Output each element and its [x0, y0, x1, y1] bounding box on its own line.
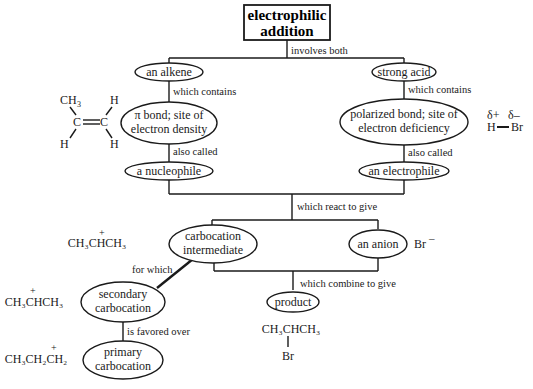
svg-text:CH₃CH₂CH₂: CH₃CH₂CH₂ — [5, 352, 68, 366]
svg-text:C: C — [73, 115, 81, 129]
link-which-combine: which combine to give — [300, 278, 396, 289]
link-which-react: which react to give — [297, 201, 378, 212]
svg-text:CH₃CHCH₃: CH₃CHCH₃ — [5, 295, 63, 309]
node-product-label: product — [275, 295, 312, 309]
svg-text:H: H — [487, 120, 496, 134]
svg-text:Br: Br — [511, 120, 523, 134]
node-strong-acid-label: strong acid — [378, 65, 431, 79]
node-primary-line1: primary — [104, 345, 142, 359]
hbr-structure: δ+ δ– H Br — [487, 108, 523, 134]
link-which-contains-right: which contains — [408, 84, 471, 95]
title-line2: addition — [260, 23, 314, 39]
node-polarized-line1: polarized bond; site of — [350, 107, 458, 121]
node-anion-label: an anion — [358, 237, 399, 251]
node-alkene-label: an alkene — [146, 65, 192, 79]
connectors — [123, 40, 404, 341]
link-also-called-left: also called — [173, 146, 218, 157]
link-involves-both: involves both — [291, 45, 349, 56]
link-which-contains-left: which contains — [173, 86, 236, 97]
link-favored-over: is favored over — [127, 326, 190, 337]
concept-map: electrophilic addition involves both an … — [0, 0, 533, 389]
propene-structure: CH 3 H C C H H — [60, 93, 119, 151]
node-nucleophile-label: a nucleophile — [137, 164, 201, 178]
svg-text:CH₃CHCH₃: CH₃CHCH₃ — [68, 236, 126, 250]
svg-text:–: – — [428, 232, 435, 244]
primary-cation-formula: + CH₃CH₂CH₂ — [5, 342, 68, 366]
carbocation-formula: + CH₃CHCH₃ — [68, 227, 126, 250]
svg-text:3: 3 — [77, 100, 81, 109]
svg-text:H: H — [110, 93, 119, 107]
node-pi-bond-line1: π bond; site of — [134, 108, 203, 122]
svg-text:H: H — [60, 137, 69, 151]
link-also-called-right: also called — [408, 147, 453, 158]
node-secondary-line1: secondary — [99, 287, 148, 301]
node-carbocation-line2: intermediate — [183, 243, 243, 257]
node-primary-line2: carbocation — [95, 359, 151, 373]
title-line1: electrophilic — [248, 7, 327, 23]
link-for-which: for which — [132, 264, 173, 275]
svg-text:Br: Br — [414, 237, 426, 251]
node-secondary-line2: carbocation — [95, 301, 151, 315]
svg-text:H: H — [110, 137, 119, 151]
svg-text:CH: CH — [60, 93, 77, 107]
svg-text:Br: Br — [282, 349, 294, 363]
svg-text:C: C — [100, 115, 108, 129]
node-pi-bond-line2: electron density — [131, 122, 207, 136]
node-polarized-line2: electron deficiency — [358, 121, 450, 135]
node-carbocation-line1: carbocation — [185, 229, 241, 243]
secondary-cation-formula: + CH₃CHCH₃ — [5, 285, 63, 309]
svg-text:CH₃CHCH₃: CH₃CHCH₃ — [262, 322, 320, 336]
bromide-ion: Br – — [414, 232, 435, 251]
product-formula: CH₃CHCH₃ Br — [262, 322, 320, 363]
node-electrophile-label: an electrophile — [369, 164, 440, 178]
